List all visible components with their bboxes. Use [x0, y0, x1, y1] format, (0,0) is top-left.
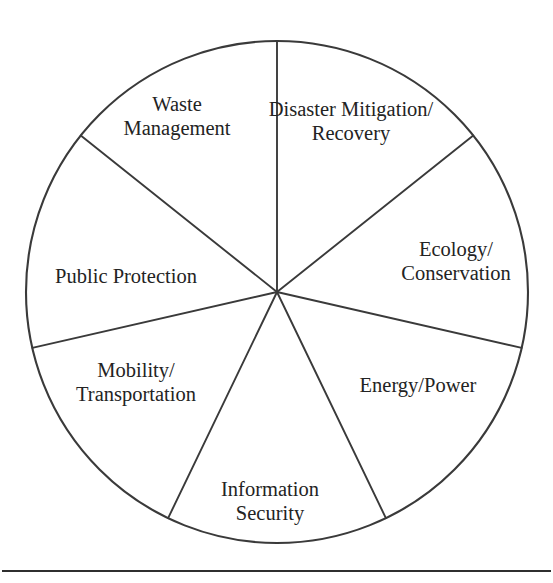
- figure-root: - - - - - - - - Disaster Mitigation/ Rec…: [0, 0, 553, 583]
- wheel-diagram: [0, 0, 553, 583]
